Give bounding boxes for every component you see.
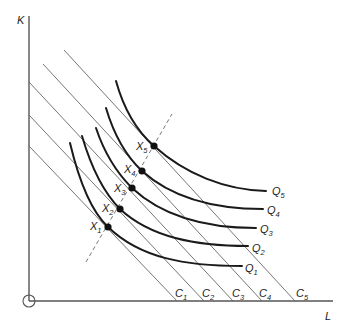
label-x5: X5 [135,140,148,155]
l-axis-label: L [325,310,331,322]
label-q2: Q2 [252,242,266,257]
label-q1: Q1 [245,262,258,277]
label-c5: C5 [296,287,309,302]
label-c1: C1 [175,287,187,302]
label-q4: Q4 [267,204,280,219]
isocost-lines [29,50,295,301]
isoquant-q5 [116,81,266,191]
label-x2: X2 [101,202,114,217]
tangency-point-x4 [138,167,145,174]
label-c3: C3 [232,287,245,302]
isocost-line-c5 [64,50,295,301]
label-q5: Q5 [272,185,286,200]
isoquant-q4 [106,108,263,209]
k-axis-label: K [17,14,25,26]
tangency-point-x2 [116,205,123,212]
tangency-point-x5 [150,142,157,149]
tangency-point-x1 [104,223,111,230]
isoquants [70,81,266,266]
isocost-line-c3 [29,82,233,301]
label-q3: Q3 [260,223,274,238]
isocost-line-c1 [29,146,177,301]
tangency-point-x3 [128,184,135,191]
label-x4: X4 [123,163,136,178]
label-c2: C2 [202,287,215,302]
production-diagram: K L X1 X2 X3 X4 X5 Q1 Q2 Q3 Q4 Q5 C1 C2 … [0,0,345,326]
label-x1: X1 [89,220,102,235]
